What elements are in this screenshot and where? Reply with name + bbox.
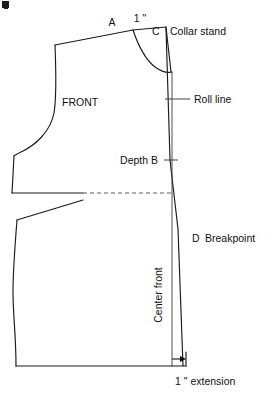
label-measure-one-inch: 1 " (134, 12, 147, 24)
label-collar-stand: Collar stand (170, 25, 226, 37)
collar-stand-segment-a-c (133, 27, 166, 30)
pattern-diagram: A 1 " C Collar stand FRONT Roll line Dep… (0, 0, 275, 393)
pattern-svg: A 1 " C Collar stand FRONT Roll line Dep… (0, 0, 275, 393)
label-depth-b: Depth B (120, 154, 158, 166)
armhole-curve (14, 45, 56, 156)
label-breakpoint: Breakpoint (205, 232, 255, 244)
side-seam-upper (12, 156, 14, 193)
label-point-d: D (192, 232, 200, 244)
shoulder-seam-line (55, 30, 133, 45)
label-front-piece: FRONT (62, 96, 99, 108)
label-extension: 1 " extension (175, 375, 236, 387)
label-roll-line: Roll line (194, 93, 232, 105)
lower-piece-top-edge (17, 200, 83, 220)
label-center-front: Center front (152, 267, 164, 323)
label-point-c: C (152, 25, 160, 37)
corner-artifact-tail (4, 6, 8, 9)
roll-line-diagonal (166, 28, 183, 366)
lower-piece-side-seam (13, 220, 17, 366)
label-point-a: A (108, 16, 115, 28)
